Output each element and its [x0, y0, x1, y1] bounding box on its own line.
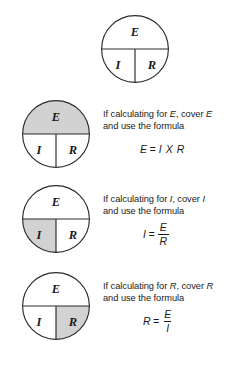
- ohms-wheel-solve-for-e: E I R: [22, 100, 90, 168]
- formula-solve-for-e: E = I X R: [140, 143, 185, 155]
- caption-line-2: and use the formula: [103, 292, 213, 304]
- fraction-numerator: E: [158, 222, 169, 234]
- caption-solve-for-e: If calculating for E, cover E and use th…: [103, 108, 212, 132]
- wheel-label-voltage: E: [51, 110, 60, 124]
- wheel-label-voltage: E: [51, 195, 60, 209]
- formula-fraction: E I: [162, 309, 173, 333]
- wheel-label-resistance: R: [68, 143, 77, 157]
- caption-line-1: If calculating for I, cover I: [103, 193, 205, 205]
- caption-variable-2: R: [207, 281, 214, 291]
- formula-equals: =: [150, 143, 156, 155]
- wheel-label-voltage: E: [130, 25, 139, 39]
- wheel-label-resistance: R: [68, 315, 77, 329]
- caption-line-2: and use the formula: [103, 120, 212, 132]
- caption-variable-2: I: [202, 194, 205, 204]
- formula-solve-for-r: R = E I: [143, 309, 173, 333]
- caption-prefix: If calculating for: [103, 281, 170, 291]
- ohms-wheel-solve-for-r: E I R: [22, 272, 90, 340]
- ohms-wheel-solve-for-i: E I R: [22, 185, 90, 253]
- caption-line-1: If calculating for R, cover R: [103, 280, 213, 292]
- wheel-label-resistance: R: [68, 228, 77, 242]
- caption-mid: , cover: [176, 109, 206, 119]
- fraction-numerator: E: [162, 309, 173, 321]
- caption-solve-for-r: If calculating for R, cover R and use th…: [103, 280, 213, 304]
- caption-solve-for-i: If calculating for I, cover I and use th…: [103, 193, 205, 217]
- formula-lhs: E: [140, 143, 147, 155]
- fraction-denominator: I: [164, 321, 171, 334]
- formula-lhs: I: [143, 228, 146, 240]
- formula-equals: =: [153, 315, 159, 327]
- caption-line-2: and use the formula: [103, 205, 205, 217]
- ohms-law-diagram: E I R E I R If calculating for E, cover …: [0, 0, 251, 367]
- caption-mid: , cover: [172, 194, 202, 204]
- caption-line-1: If calculating for E, cover E: [103, 108, 212, 120]
- caption-mid: , cover: [176, 281, 206, 291]
- formula-rhs: I X R: [159, 143, 185, 155]
- caption-prefix: If calculating for: [103, 194, 170, 204]
- formula-fraction: E R: [158, 222, 170, 246]
- caption-variable-2: E: [206, 109, 212, 119]
- ohms-wheel-legend: E I R: [101, 15, 169, 83]
- formula-lhs: R: [143, 315, 151, 327]
- caption-prefix: If calculating for: [103, 109, 170, 119]
- formula-solve-for-i: I = E R: [143, 222, 169, 246]
- formula-equals: =: [148, 228, 154, 240]
- wheel-label-voltage: E: [51, 282, 60, 296]
- wheel-label-resistance: R: [147, 58, 156, 72]
- fraction-denominator: R: [158, 234, 170, 247]
